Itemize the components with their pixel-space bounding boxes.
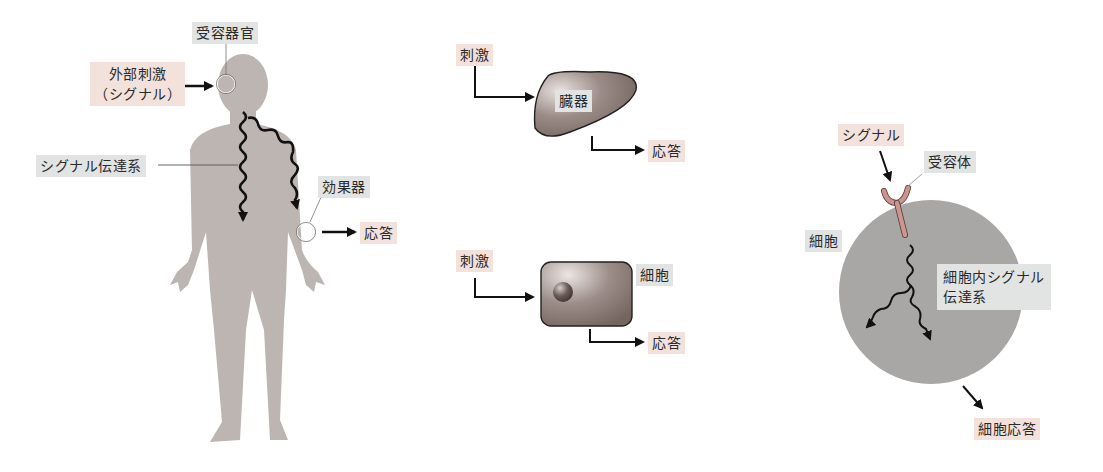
signal-pathway-label: シグナル伝達系 [36,155,146,177]
receptor-label: 受容体 [924,151,976,173]
intracellular-line2: 伝達系 [943,287,1045,307]
organ-response-arrow [592,136,643,150]
intracellular-pathway-label: 細胞内シグナル 伝達系 [937,264,1051,310]
cell-label: 細胞 [636,264,673,286]
external-stimulus-line1: 外部刺激 [94,64,181,84]
external-stimulus-label: 外部刺激 （シグナル） [90,62,185,106]
cell-response-final-label: 細胞応答 [974,418,1040,440]
receptor-organ-label: 受容器官 [192,22,258,44]
cell-response-arrow [590,329,643,342]
cell-response-arrow-2 [963,386,982,408]
signal-arrow [880,151,890,180]
organism-response-label: 応答 [360,222,397,244]
cell-nucleus [553,282,573,302]
organ-label: 臓器 [555,90,592,112]
cell-stimulus-arrow [475,278,533,297]
organ-response-label: 応答 [648,140,685,162]
organ-stimulus-arrow [475,64,533,97]
signal-label: シグナル [838,124,904,146]
cell-stimulus-label: 刺激 [456,250,493,272]
external-stimulus-line2: （シグナル） [94,84,181,104]
intracellular-line1: 細胞内シグナル [943,267,1045,287]
signaling-cell-label: 細胞 [805,230,842,252]
effector-label: 効果器 [318,176,370,198]
organ-stimulus-label: 刺激 [456,44,493,66]
cell-response-label: 応答 [648,332,685,354]
human-body-silhouette [170,54,325,442]
